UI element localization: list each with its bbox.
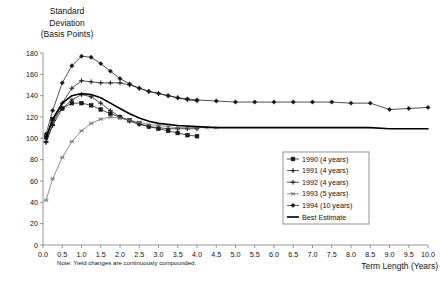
data-point-marker — [98, 80, 103, 85]
series-4 — [44, 115, 219, 202]
x-axis-tick-label: 9.0 — [385, 250, 395, 259]
y-axis-tick-label: 60 — [30, 177, 38, 186]
legend-label: 1993 (5 years) — [302, 189, 348, 198]
data-point-marker — [89, 79, 94, 84]
series-line — [46, 81, 197, 143]
x-axis-tick-label: 1.5 — [96, 250, 106, 259]
y-axis-tick-label: 120 — [26, 113, 38, 122]
x-axis-tick-label: 9.5 — [404, 250, 414, 259]
data-point-marker — [407, 106, 411, 110]
data-point-marker — [60, 156, 64, 160]
data-point-marker — [310, 100, 314, 104]
data-point-marker — [176, 131, 180, 135]
plot-area: 0204060801001201401601800.00.51.01.52.02… — [0, 0, 441, 286]
x-axis-tick-label: 7.0 — [308, 250, 318, 259]
data-point-marker — [44, 140, 49, 145]
series-line — [46, 103, 197, 137]
data-point-marker — [272, 100, 276, 104]
data-point-marker — [80, 101, 84, 105]
x-axis-tick-label: 8.0 — [346, 250, 356, 259]
data-point-marker — [70, 140, 74, 144]
data-point-marker — [330, 100, 334, 104]
data-point-marker — [99, 108, 103, 112]
x-axis-tick-label: 3.0 — [154, 250, 164, 259]
data-point-marker — [137, 86, 141, 90]
data-point-marker — [233, 100, 237, 104]
x-axis-tick-label: 10.0 — [421, 250, 435, 259]
x-axis-title: Term Length (Years) — [330, 261, 438, 271]
data-point-marker — [50, 108, 54, 112]
y-axis-tick-label: 160 — [26, 70, 38, 79]
x-axis-tick-label: 8.5 — [365, 250, 375, 259]
series-line — [46, 56, 428, 134]
data-point-marker — [166, 93, 170, 97]
data-point-marker — [89, 55, 93, 59]
data-point-marker — [195, 134, 199, 138]
x-axis-tick-label: 6.0 — [269, 250, 279, 259]
y-axis-tick-label: 0 — [34, 241, 38, 250]
y-axis-tick-label: 100 — [26, 134, 38, 143]
legend-label: 1991 (4 years) — [302, 166, 348, 175]
x-axis-tick-label: 2.0 — [115, 250, 125, 259]
chart-note: Note: Yield changes are continuously com… — [57, 260, 287, 266]
data-point-marker — [349, 101, 353, 105]
x-axis-tick-label: 4.5 — [211, 250, 221, 259]
data-point-marker — [253, 100, 257, 104]
data-point-marker — [44, 198, 48, 202]
data-point-marker — [156, 91, 160, 95]
data-point-marker — [99, 117, 103, 121]
y-axis-tick-label: 140 — [26, 91, 38, 100]
data-point-marker — [50, 177, 54, 181]
legend-label: 1990 (4 years) — [302, 155, 348, 164]
data-point-marker — [368, 101, 372, 105]
data-point-marker — [214, 99, 218, 103]
data-point-marker — [118, 80, 123, 85]
x-axis-tick-label: 0.5 — [57, 250, 67, 259]
chart-container: Standard Deviation (Basis Points) 020406… — [0, 0, 441, 286]
x-axis-tick-label: 0.0 — [38, 250, 48, 259]
x-axis-tick-label: 4.0 — [192, 250, 202, 259]
series-1 — [44, 101, 199, 139]
x-axis-tick-label: 5.5 — [250, 250, 260, 259]
legend-label: 1992 (4 years) — [302, 178, 348, 187]
x-axis-tick-label: 7.5 — [327, 250, 337, 259]
legend: 1990 (4 years)1991 (4 years)1992 (4 year… — [283, 152, 369, 224]
x-axis-tick-label: 1.0 — [77, 250, 87, 259]
x-axis-tick-label: 3.5 — [173, 250, 183, 259]
data-point-marker — [291, 100, 295, 104]
data-point-marker — [60, 81, 64, 85]
data-point-marker — [185, 133, 189, 137]
data-point-marker — [147, 89, 151, 93]
y-axis-tick-label: 20 — [30, 219, 38, 228]
y-axis-tick-label: 40 — [30, 198, 38, 207]
series-6 — [46, 94, 428, 139]
x-axis-tick-label: 5.0 — [231, 250, 241, 259]
data-point-marker — [291, 157, 295, 161]
y-axis-tick-label: 80 — [30, 155, 38, 164]
data-point-marker — [89, 122, 93, 126]
series-line — [46, 117, 216, 200]
x-axis-tick-label: 2.5 — [134, 250, 144, 259]
series-5 — [44, 54, 430, 136]
data-point-marker — [387, 107, 391, 111]
y-axis-tick-label: 180 — [26, 49, 38, 58]
data-point-marker — [426, 105, 430, 109]
legend-label: 1994 (10 years) — [302, 201, 352, 210]
data-point-marker — [108, 80, 113, 85]
data-point-marker — [89, 103, 93, 107]
series-line — [46, 94, 428, 139]
data-point-marker — [79, 129, 83, 133]
data-point-marker — [176, 96, 180, 100]
x-axis-tick-label: 6.5 — [288, 250, 298, 259]
legend-label: Best Estimate — [302, 213, 346, 222]
